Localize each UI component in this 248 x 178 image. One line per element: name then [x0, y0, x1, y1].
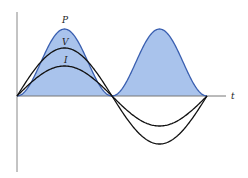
time-axis-label: t [231, 91, 235, 101]
power-label: P [61, 15, 69, 25]
power-curve-fill [17, 29, 207, 96]
power-voltage-current-diagram: P V I t [0, 0, 248, 178]
current-label: I [63, 55, 68, 65]
